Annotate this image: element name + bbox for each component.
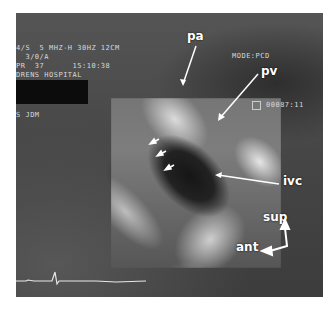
small-arrows-icon xyxy=(150,139,174,170)
orientation-arrows-icon xyxy=(262,220,289,255)
pa-arrow-icon xyxy=(183,46,196,84)
pv-arrow-icon xyxy=(220,74,258,118)
ecg-trace xyxy=(16,268,146,288)
annotation-arrows xyxy=(0,0,333,313)
ivc-arrow-icon xyxy=(218,175,279,184)
